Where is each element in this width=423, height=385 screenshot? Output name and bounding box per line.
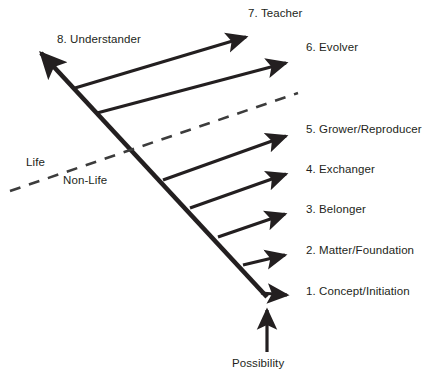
stage-label-6-evolver: 6. Evolver: [306, 41, 358, 54]
stage-label-4-exchanger: 4. Exchanger: [306, 163, 375, 176]
arrow-to-belonger: [218, 214, 285, 237]
stage-label-5-grower-reproducer: 5. Grower/Reproducer: [306, 123, 422, 136]
arrow-to-matter-foundation: [243, 255, 285, 265]
divider-label-life: Life: [26, 156, 45, 169]
arrow-to-grower-reproducer: [163, 136, 286, 180]
origin-label-possibility: Possibility: [232, 357, 284, 370]
arrow-to-concept-initiation: [261, 293, 287, 295]
divider-label-non-life: Non-Life: [63, 174, 107, 187]
stage-label-8-understander: 8. Understander: [57, 33, 141, 46]
diagram-graphics: [0, 0, 423, 385]
diagram-canvas: 8. Understander 7. Teacher 6. Evolver 5.…: [0, 0, 423, 385]
stage-label-7-teacher: 7. Teacher: [248, 7, 303, 20]
arrow-to-exchanger: [190, 174, 286, 208]
stage-label-2-matter-foundation: 2. Matter/Foundation: [306, 244, 414, 257]
stage-label-3-belonger: 3. Belonger: [306, 203, 366, 216]
stage-label-1-concept-initiation: 1. Concept/Initiation: [306, 285, 410, 298]
